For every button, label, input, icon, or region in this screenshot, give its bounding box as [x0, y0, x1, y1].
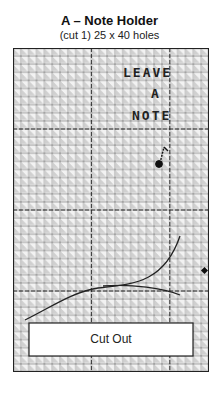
stitched-text-a: A	[151, 86, 161, 101]
diagram-subtitle: (cut 1) 25 x 40 holes	[0, 29, 219, 41]
stitched-text-leave: LEAVE	[123, 65, 172, 80]
diagram-title: A – Note Holder	[0, 13, 219, 28]
cutout-label: Cut Out	[29, 323, 193, 356]
stitched-text-note: NOTE	[132, 108, 171, 123]
